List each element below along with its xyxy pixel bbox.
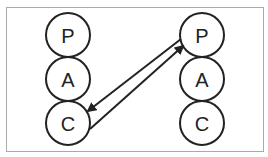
right-node-a-label: A [195, 69, 209, 91]
left-node-c: C [46, 101, 90, 145]
left-node-c-label: C [61, 113, 75, 135]
right-node-c: C [180, 101, 224, 145]
left-node-a-label: A [61, 69, 75, 91]
left-node-p-label: P [61, 25, 74, 47]
right-column: P A C [180, 13, 224, 145]
left-column: P A C [46, 13, 90, 145]
left-node-a: A [46, 57, 90, 101]
right-node-p-label: P [195, 25, 208, 47]
right-node-c-label: C [195, 113, 209, 135]
left-node-p: P [46, 13, 90, 57]
right-node-a: A [180, 57, 224, 101]
pac-diagram: P A C P A C [0, 0, 268, 157]
right-node-p: P [180, 13, 224, 57]
